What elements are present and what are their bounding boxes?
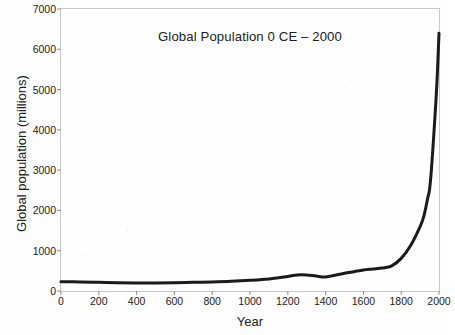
y-tick-label: 3000 <box>16 165 56 175</box>
x-tick-label: 1000 <box>230 296 270 307</box>
x-tick-label: 0 <box>41 296 81 307</box>
y-axis-title: Global population (millions) <box>14 29 29 279</box>
x-tick-label: 400 <box>117 296 157 307</box>
x-tick-label: 2000 <box>419 296 455 307</box>
y-tick-label: 5000 <box>16 85 56 95</box>
x-tick-label: 600 <box>154 296 194 307</box>
x-tick-label: 1800 <box>381 296 421 307</box>
y-tick-label: 6000 <box>16 44 56 54</box>
y-tick-label: 0 <box>16 286 56 296</box>
y-tick-label: 1000 <box>16 246 56 256</box>
y-tick-label: 2000 <box>16 205 56 215</box>
y-tick-label: 7000 <box>16 4 56 14</box>
chart-title: Global Population 0 CE – 2000 <box>60 29 440 44</box>
plot-area <box>60 8 440 292</box>
x-axis-title: Year <box>60 314 440 329</box>
x-tick-label: 1400 <box>306 296 346 307</box>
x-tick-label: 200 <box>79 296 119 307</box>
x-tick-label: 800 <box>192 296 232 307</box>
x-tick-label: 1600 <box>343 296 383 307</box>
y-tick-label: 4000 <box>16 125 56 135</box>
x-tick-label: 1200 <box>268 296 308 307</box>
